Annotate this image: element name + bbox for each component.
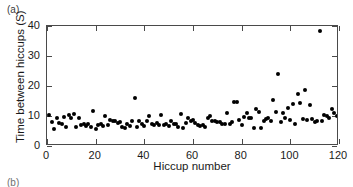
data-point: [176, 125, 180, 129]
data-point: [305, 118, 309, 122]
data-point: [208, 114, 212, 118]
data-point: [128, 124, 132, 128]
data-point: [77, 116, 81, 120]
data-point: [318, 29, 322, 33]
data-point: [60, 122, 64, 126]
data-point: [240, 123, 244, 127]
y-tick-label-30: 30: [6, 50, 40, 61]
x-tick-label-60: 60: [175, 150, 209, 161]
data-point: [245, 111, 249, 115]
data-point: [237, 118, 241, 122]
data-point: [296, 92, 300, 96]
y-tick-label-20: 20: [6, 80, 40, 91]
x-tick-label-120: 120: [321, 150, 353, 161]
data-point: [252, 126, 256, 130]
data-point: [242, 115, 246, 119]
plot-area: [46, 25, 338, 145]
data-point: [230, 120, 234, 124]
data-point: [298, 101, 302, 105]
data-point: [130, 119, 134, 123]
data-point: [293, 122, 297, 126]
data-point: [315, 119, 319, 123]
scatter-series: [47, 26, 337, 144]
data-point: [279, 120, 283, 124]
data-point: [181, 126, 185, 130]
data-point: [320, 119, 324, 123]
panel-label-b: (b): [7, 178, 19, 187]
data-point: [89, 125, 93, 129]
data-point: [145, 119, 149, 123]
data-point: [69, 116, 73, 120]
data-point: [123, 126, 127, 130]
x-axis-title: Hiccup number: [46, 160, 338, 172]
data-point: [52, 127, 56, 131]
x-tick-label-100: 100: [272, 150, 306, 161]
data-point: [62, 115, 66, 119]
data-point: [47, 113, 51, 117]
y-tick-label-40: 40: [6, 20, 40, 31]
data-point: [184, 121, 188, 125]
data-point: [179, 112, 183, 116]
data-point: [288, 118, 292, 122]
data-point: [225, 111, 229, 115]
data-point: [276, 72, 280, 76]
x-tick-label-0: 0: [29, 150, 63, 161]
figure-panel-a: (a) (b) Time between hiccups (S) Hiccup …: [0, 0, 353, 187]
data-point: [223, 122, 227, 126]
data-point: [271, 98, 275, 102]
data-point: [94, 127, 98, 131]
y-tick-right: [332, 146, 337, 147]
data-point: [159, 113, 163, 117]
data-point: [203, 125, 207, 129]
data-point: [257, 110, 261, 114]
data-point: [106, 123, 110, 127]
data-point: [72, 112, 76, 116]
x-tick-label-40: 40: [126, 150, 160, 161]
data-point: [55, 116, 59, 120]
y-tick-label-10: 10: [6, 110, 40, 121]
data-point: [74, 125, 78, 129]
data-point: [142, 124, 146, 128]
data-point: [286, 106, 290, 110]
x-tick-label-80: 80: [224, 150, 258, 161]
x-tick-top: [339, 26, 340, 31]
data-point: [259, 126, 263, 130]
x-tick: [339, 139, 340, 144]
data-point: [103, 114, 107, 118]
data-point: [101, 124, 105, 128]
data-point: [235, 100, 239, 104]
data-point: [135, 125, 139, 129]
data-point: [118, 120, 122, 124]
data-point: [64, 125, 68, 129]
data-point: [157, 123, 161, 127]
data-point: [50, 120, 54, 124]
data-point: [283, 116, 287, 120]
data-point: [327, 116, 331, 120]
data-point: [308, 103, 312, 107]
data-point: [167, 124, 171, 128]
data-point: [281, 111, 285, 115]
data-point: [91, 109, 95, 113]
y-tick: [47, 146, 52, 147]
data-point: [147, 114, 151, 118]
data-point: [133, 96, 137, 100]
x-tick-label-20: 20: [78, 150, 112, 161]
data-point: [274, 110, 278, 114]
data-point: [269, 119, 273, 123]
data-point: [303, 88, 307, 92]
data-point: [291, 102, 295, 106]
data-point: [249, 116, 253, 120]
data-point: [301, 117, 305, 121]
